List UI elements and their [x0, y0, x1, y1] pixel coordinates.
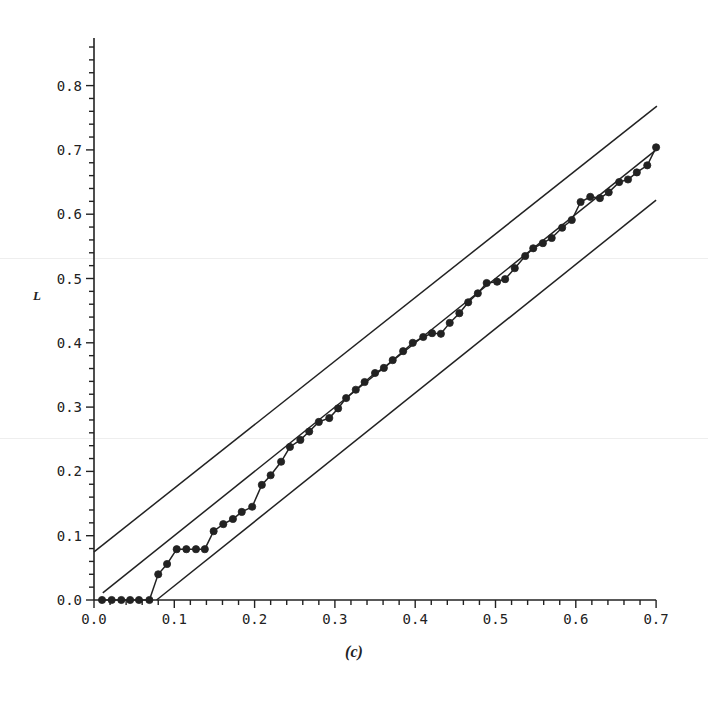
x-tick-label: 0.6: [563, 611, 588, 627]
x-tick-label: 0.3: [322, 611, 347, 627]
data-point-marker: [605, 189, 612, 196]
data-point-marker: [568, 216, 575, 223]
data-point-marker: [315, 418, 322, 425]
data-point-marker: [530, 245, 537, 252]
data-point-marker: [127, 596, 134, 603]
data-point-marker: [587, 193, 594, 200]
data-point-marker: [644, 162, 651, 169]
data-point-marker: [483, 279, 490, 286]
data-point-marker: [522, 252, 529, 259]
data-point-marker: [146, 596, 153, 603]
y-tick-label: 0.2: [57, 463, 82, 479]
observed-line: [102, 147, 656, 600]
data-point-marker: [335, 405, 342, 412]
data-point-marker: [494, 278, 501, 285]
data-point-marker: [456, 310, 463, 317]
data-point-marker: [286, 443, 293, 450]
data-point-marker: [548, 234, 555, 241]
data-point-marker: [428, 330, 435, 337]
data-point-marker: [633, 169, 640, 176]
data-point-marker: [183, 546, 190, 553]
data-point-marker: [624, 176, 631, 183]
data-point-marker: [400, 348, 407, 355]
data-point-marker: [220, 521, 227, 528]
data-point-marker: [267, 472, 274, 479]
y-axis-label: L: [32, 288, 41, 303]
data-point-marker: [118, 596, 125, 603]
x-tick-label: 0.7: [643, 611, 668, 627]
x-tick-label: 0.2: [242, 611, 267, 627]
data-point-marker: [653, 144, 660, 151]
data-point-marker: [229, 515, 236, 522]
reference-lines: [94, 106, 657, 600]
y-tick-label: 0.5: [57, 271, 82, 287]
x-tick-label: 0.5: [483, 611, 508, 627]
data-point-marker: [297, 436, 304, 443]
data-point-marker: [238, 508, 245, 515]
y-tick-label: 0.8: [57, 78, 82, 94]
data-point-marker: [135, 596, 142, 603]
data-point-marker: [249, 503, 256, 510]
figure-caption: (c): [0, 643, 708, 661]
data-point-marker: [210, 528, 217, 535]
data-point-marker: [201, 546, 208, 553]
data-point-marker: [539, 240, 546, 247]
data-series: [98, 144, 659, 604]
data-point-marker: [389, 357, 396, 364]
data-point-marker: [108, 596, 115, 603]
data-point-marker: [361, 378, 368, 385]
x-tick-label: 0.1: [162, 611, 187, 627]
data-point-marker: [474, 290, 481, 297]
data-point-marker: [577, 198, 584, 205]
y-tick-label: 0.3: [57, 399, 82, 415]
data-point-marker: [343, 394, 350, 401]
data-point-marker: [437, 330, 444, 337]
x-tick-label: 0.0: [81, 611, 106, 627]
data-point-marker: [559, 224, 566, 231]
data-point-marker: [446, 319, 453, 326]
data-point-marker: [511, 265, 518, 272]
data-point-marker: [596, 195, 603, 202]
y-tick-label: 0.6: [57, 206, 82, 222]
data-point-marker: [502, 276, 509, 283]
data-point-marker: [98, 596, 105, 603]
y-tick-label: 0.0: [57, 592, 82, 608]
data-point-marker: [326, 414, 333, 421]
upper-band-line: [94, 106, 657, 552]
y-tick-label: 0.7: [57, 142, 82, 158]
data-point-marker: [163, 560, 170, 567]
chart: 0.00.10.20.30.40.50.60.70.80.00.10.20.30…: [0, 0, 708, 706]
data-point-marker: [173, 546, 180, 553]
data-point-marker: [277, 458, 284, 465]
data-point-marker: [409, 339, 416, 346]
lower-band-line: [157, 200, 656, 600]
data-point-marker: [420, 333, 427, 340]
data-point-marker: [192, 546, 199, 553]
x-tick-label: 0.4: [403, 611, 428, 627]
data-point-marker: [155, 571, 162, 578]
data-point-marker: [465, 299, 472, 306]
data-point-marker: [258, 481, 265, 488]
data-point-marker: [380, 364, 387, 371]
data-point-marker: [352, 386, 359, 393]
data-point-marker: [371, 369, 378, 376]
y-tick-label: 0.4: [57, 335, 82, 351]
axes: 0.00.10.20.30.40.50.60.70.80.00.10.20.30…: [32, 38, 669, 627]
y-tick-label: 0.1: [57, 528, 82, 544]
data-point-marker: [306, 428, 313, 435]
data-point-marker: [616, 178, 623, 185]
